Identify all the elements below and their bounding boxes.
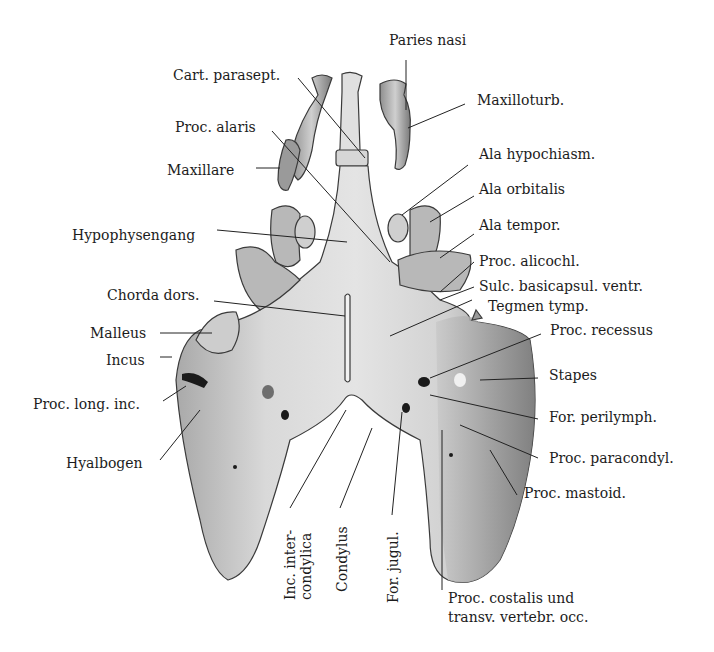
- label-incus: Incus: [106, 352, 145, 368]
- label-proc-alicochl: Proc. alicochl.: [479, 253, 580, 269]
- label-inc-intercondylica-line2: condylica: [298, 533, 314, 600]
- label-tegmen-tymp: Tegmen tymp.: [488, 298, 589, 314]
- label-maxillare: Maxillare: [167, 162, 234, 178]
- label-ala-orbitalis: Ala orbitalis: [479, 181, 565, 197]
- label-stapes: Stapes: [549, 367, 597, 383]
- label-proc-mastoid: Proc. mastoid.: [524, 485, 626, 501]
- label-hypophysengang: Hypophysengang: [72, 227, 195, 243]
- label-malleus: Malleus: [90, 325, 146, 341]
- label-for-perilymph: For. perilymph.: [549, 409, 657, 425]
- label-cart-parasept: Cart. parasept.: [173, 67, 280, 83]
- label-proc-alaris: Proc. alaris: [175, 119, 256, 135]
- stapes-shape: [454, 373, 466, 387]
- label-proc-paracondyl: Proc. paracondyl.: [549, 450, 674, 466]
- label-proc-costalis-line1: Proc. costalis und: [448, 590, 574, 606]
- label-proc-costalis-line2: transv. vertebr. occ.: [448, 609, 588, 625]
- label-paries-nasi: Paries nasi: [389, 32, 466, 48]
- label-hyalbogen: Hyalbogen: [66, 455, 143, 471]
- label-proc-long-inc: Proc. long. inc.: [33, 396, 140, 412]
- label-condylus: Condylus: [334, 526, 350, 592]
- label-for-jugul: For. jugul.: [385, 531, 401, 603]
- label-maxilloturb: Maxilloturb.: [477, 92, 564, 108]
- label-chorda-dors: Chorda dors.: [107, 287, 199, 303]
- label-ala-hypochiasm: Ala hypochiasm.: [479, 146, 595, 162]
- label-ala-tempor: Ala tempor.: [479, 217, 561, 233]
- label-sulc-basicapsul-ventr: Sulc. basicapsul. ventr.: [479, 278, 643, 294]
- label-proc-recessus: Proc. recessus: [550, 322, 653, 338]
- label-inc-intercondylica-line1: Inc. inter-: [282, 530, 298, 600]
